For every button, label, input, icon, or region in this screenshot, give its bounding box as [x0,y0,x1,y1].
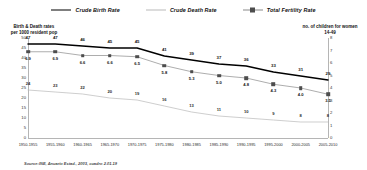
y-tick-label-left: 35 [14,66,26,70]
line-swatch-icon [51,6,71,14]
x-tick-label: 1995-2000 [264,143,283,147]
y-tick-label-left: 5 [14,126,26,130]
data-label: 31 [298,68,303,72]
data-label: 8 [300,114,302,118]
data-label: 47 [53,36,58,40]
chart-legend: Crude Birth Rate Crude Death Rate Total … [0,6,367,14]
data-point-marker [190,70,194,74]
data-point-marker [217,74,221,78]
data-label: 6.5 [134,62,140,66]
data-label: 11 [217,108,221,112]
legend-item-crude-death-rate[interactable]: Crude Death Rate [146,6,217,14]
legend-label: Crude Death Rate [170,7,217,13]
x-tick-label: 2000-2005 [291,143,310,147]
data-label: 45 [107,40,112,44]
data-point-marker [163,64,167,68]
y-tick-label-left: 10 [14,116,26,120]
data-label: 41 [162,48,167,52]
data-point-marker [26,50,30,54]
data-label: 13 [189,104,194,108]
data-label: 9 [272,112,274,116]
y-tick-label-left: 45 [14,46,26,50]
data-point-marker [108,54,112,58]
data-label: 4.3 [271,89,277,93]
x-tick-label: 2005-2010 [319,143,338,147]
data-label: 5.3 [189,77,195,81]
data-label: 8 [327,114,329,118]
data-label: 45 [135,40,140,44]
data-point-marker [299,86,303,90]
data-label: 24 [26,82,31,86]
y-tick-label-right: 8 [330,36,342,40]
x-tick-label: 1950-1955 [19,143,38,147]
data-label: 6.6 [80,60,86,64]
legend-label: Crude Birth Rate [75,7,119,13]
y-tick-label-right: 0 [330,136,342,140]
y-tick-label-left: 25 [14,86,26,90]
y-tick-label-left: 30 [14,76,26,80]
data-point-marker [272,82,276,86]
source-note: Source:INE, Anuario Estad., 2003, cuadro… [24,161,117,166]
data-label: 23 [53,84,58,88]
data-label: 6.6 [107,60,113,64]
chart-container: Crude Birth Rate Crude Death Rate Total … [0,0,367,170]
x-tick-label: 1980-1985 [182,143,201,147]
data-label: 22 [80,86,85,90]
data-label: 46 [80,38,85,42]
data-label: 47 [26,36,31,40]
plot-area: 051015202530354045500123456781950-195519… [28,38,328,138]
data-point-marker [81,54,85,58]
y-tick-label-right: 5 [330,74,342,78]
x-tick-label: 1975-1980 [155,143,174,147]
data-label: 33 [271,64,276,68]
data-label: 37 [217,56,222,60]
y-tick-label-left: 50 [14,36,26,40]
legend-item-crude-birth-rate[interactable]: Crude Birth Rate [51,6,119,14]
x-tick-label: 1965-1970 [101,143,120,147]
x-tick-label: 1960-1965 [73,143,92,147]
x-tick-label: 1970-1975 [128,143,147,147]
data-point-marker [326,92,330,96]
data-point-marker [135,55,139,59]
data-label: 4.0 [298,93,304,97]
y-tick-label-right: 4 [330,86,342,90]
x-tick-label: 1990-1995 [237,143,256,147]
series-lines [28,38,328,138]
line-swatch-icon [146,6,166,14]
x-tick-label: 1985-1990 [210,143,229,147]
data-point-marker [244,76,248,80]
data-label: 39 [189,52,194,56]
data-label: 19 [135,92,140,96]
data-label: 6.9 [25,57,31,61]
y-tick-label-right: 2 [330,111,342,115]
legend-item-total-fertility-rate[interactable]: Total Fertility Rate [243,6,316,14]
y-tick-label-right: 3 [330,99,342,103]
data-label: 3.5 [325,99,331,103]
x-tick-label: 1955-1960 [46,143,65,147]
y-tick-label-right: 7 [330,49,342,53]
data-label: 5.8 [162,70,168,74]
data-label: 29 [326,72,331,76]
y-tick-label-right: 6 [330,61,342,65]
y-tick-label-left: 15 [14,106,26,110]
y-tick-label-left: 0 [14,136,26,140]
y-tick-label-left: 20 [14,96,26,100]
legend-label: Total Fertility Rate [267,7,316,13]
data-label: 16 [162,98,167,102]
data-label: 36 [244,58,249,62]
data-label: 20 [108,90,113,94]
line-marker-swatch-icon [243,6,263,14]
data-label: 5.0 [216,80,222,84]
data-label: 10 [244,110,249,114]
data-label: 6.9 [52,57,58,61]
y-tick-label-right: 1 [330,124,342,128]
data-point-marker [53,50,57,54]
data-label: 4.8 [243,83,249,87]
